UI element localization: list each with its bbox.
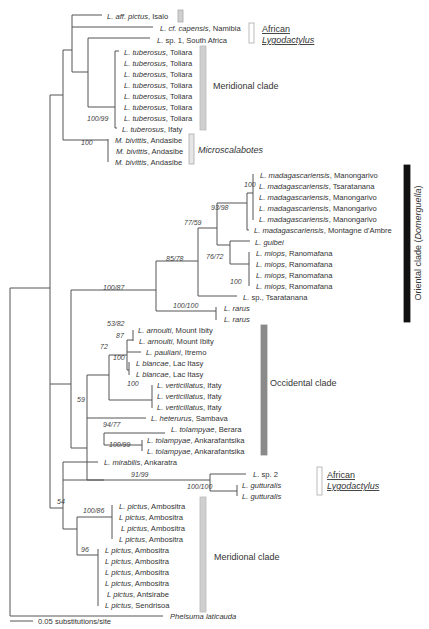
support-value: 53/82 <box>107 320 125 327</box>
taxon-label: L. arnoulti, Mount Ibity <box>138 326 213 335</box>
taxon-label: L. pauliani, Itremo <box>146 348 206 357</box>
support-value: 72 <box>100 343 108 350</box>
clade-bar <box>200 46 206 130</box>
taxon-label: L. miops, Ranomafana <box>256 249 333 258</box>
clade-label: African <box>262 24 290 34</box>
taxon-label: M. bivittis, Andasibe <box>115 158 182 167</box>
support-value: 87 <box>116 332 125 339</box>
clade-label: Microscalabotes <box>198 145 264 155</box>
clade-label: Oriental clade (Domerguella) <box>413 185 423 300</box>
taxon-label: L pictus, Ambositra <box>105 579 170 588</box>
taxon-labels: L. aff. pictus, IsaloL. cf. capensis, Na… <box>104 12 392 621</box>
support-value: 54 <box>57 498 65 505</box>
taxon-label: L pictus, Antsirabe <box>107 590 169 599</box>
support-value: 100 <box>127 380 139 387</box>
support-value: 76/72 <box>206 253 224 260</box>
taxon-label: L. tuberosus, Toliara <box>124 70 193 79</box>
taxon-label: M. bivittis, Andasibe <box>115 136 182 145</box>
support-value: 100/99 <box>87 115 109 122</box>
taxon-label: L pictus, Sendrisoa <box>105 601 170 610</box>
taxon-label: Phelsuma laticauda <box>170 612 236 621</box>
taxon-label: L. rarus <box>224 304 250 313</box>
taxon-label: L blancae, Lac Itasy <box>136 370 204 379</box>
taxon-label: L. tuberosus, Ifaty <box>122 125 183 134</box>
clade-bar <box>249 23 254 43</box>
support-value: 100/100 <box>173 302 198 309</box>
support-value: 100 <box>230 278 242 285</box>
support-value: 59 <box>77 396 85 403</box>
taxon-label: L. gutturalis <box>242 481 281 490</box>
taxon-label: L. aff. pictus, Isalo <box>107 12 168 21</box>
support-value: 93/98 <box>211 204 229 211</box>
clade-label: Lygodactylus <box>327 481 380 491</box>
taxon-label: L. sp. 1, South Africa <box>157 36 228 45</box>
taxon-label: L. madagascariensis, Manongarivo <box>259 215 377 224</box>
taxon-label: L pictus, Ambositra <box>105 546 170 555</box>
clade-bar <box>261 325 267 455</box>
taxon-label: L. cf. capensis, Namibia <box>160 24 241 33</box>
taxon-label: L. miops, Ranomafana <box>256 271 333 280</box>
taxon-label: M. bivittis, Andasibe <box>116 147 183 156</box>
taxon-label: L. tuberosus, Toliara <box>124 103 193 112</box>
taxon-label: L pictus, Ambositra <box>119 535 184 544</box>
taxon-label: L. tuberosus, Toliara <box>124 114 193 123</box>
taxon-label: L. madagascariensis, Tsaratanana <box>259 182 375 191</box>
taxon-label: L. rarus <box>224 315 250 324</box>
clade-bar <box>178 10 183 22</box>
taxon-label: L. mirabilis, Ankaratra <box>104 458 178 467</box>
taxon-label: L pictus, Ambositra <box>121 524 186 533</box>
taxon-label: L. miops, Ranomafana <box>256 282 333 291</box>
taxon-label: L. pictus, Ambositra <box>119 502 186 511</box>
taxon-label: L. miops, Ranomafana <box>256 260 333 269</box>
taxon-label: L. guibei <box>255 238 284 247</box>
support-value: 85/78 <box>166 255 184 262</box>
support-value: 94/77 <box>103 421 122 428</box>
clade-label: Meridional clade <box>213 81 279 91</box>
taxon-label: L. madagascariensis, Manongarivo <box>260 171 378 180</box>
taxon-label: L. tolampyae, Ankarafantsika <box>147 447 245 456</box>
support-value: 100/87 <box>103 284 126 291</box>
support-value: 100/86 <box>83 507 105 514</box>
taxon-label: L. tuberosus, Toliara <box>124 81 193 90</box>
clade-bar <box>189 134 194 164</box>
taxon-label: L. tolampyae, Ankarafantsika <box>147 436 245 445</box>
taxon-label: L pictus, Ambositra <box>105 557 170 566</box>
taxon-label: L. heterurus, Sambava <box>151 414 229 423</box>
clade-bar <box>404 165 410 322</box>
clade-bar <box>317 467 322 495</box>
taxon-label: L. verticillatus, Ifaty <box>157 381 222 390</box>
taxon-label: L. tolampyae, Berara <box>171 425 242 434</box>
support-value: 91/99 <box>131 471 149 478</box>
taxon-label: L. tuberosus, Toliara <box>124 48 193 57</box>
taxon-label: L. madagascariensis, Montagne d'Ambre <box>254 226 392 235</box>
clade-bar <box>200 497 206 612</box>
support-value: 100 <box>244 181 256 188</box>
taxon-label: L. madagascariensis, Manongarivo <box>259 204 377 213</box>
taxon-label: L pictus, Ambositra <box>119 513 184 522</box>
taxon-label: L. arnoulti, Mount Ibity <box>139 337 214 346</box>
clade-label: Occidental clade <box>270 378 337 388</box>
clade-label: African <box>327 470 355 480</box>
taxon-label: L. tuberosus, Toliara <box>124 92 193 101</box>
clade-label: Lygodactylus <box>262 35 315 45</box>
taxon-label: L pictus, Ambositra <box>105 568 170 577</box>
taxon-label: L. sp. 2 <box>253 470 278 479</box>
support-value: 100/100 <box>187 483 212 490</box>
scale-bar-label: 0.05 substitutions/site <box>38 617 111 626</box>
support-value: 96 <box>81 546 89 553</box>
phylogenetic-tree: AfricanLygodactylusMeridional cladeMicro… <box>0 0 429 629</box>
support-value: 100/99 <box>109 441 131 448</box>
taxon-label: L. madagascariensis, Manongarivo <box>259 193 377 202</box>
support-value: 100 <box>113 354 125 361</box>
taxon-label: L blancae, Lac Itasy <box>136 359 204 368</box>
taxon-label: L. tuberosus, Toliara <box>124 59 193 68</box>
support-value: 100 <box>81 139 93 146</box>
taxon-label: L. verticillatus, Ifaty <box>157 392 222 401</box>
taxon-label: L. gutturalis <box>242 492 281 501</box>
scale-bar: 0.05 substitutions/site <box>10 617 111 626</box>
clade-label: Meridional clade <box>214 552 280 562</box>
support-value: 77/59 <box>184 219 202 226</box>
taxon-label: L. verticillatus, Ifaty <box>157 403 222 412</box>
taxon-label: L. sp., Tsaratanana <box>243 293 308 302</box>
